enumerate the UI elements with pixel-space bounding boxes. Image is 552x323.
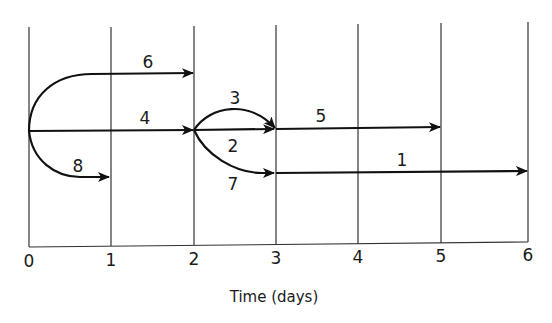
activity-4-arrow — [29, 130, 193, 131]
activity-3-label: 3 — [230, 88, 241, 108]
activity-1-label: 1 — [397, 150, 408, 170]
time-axis-baseline — [29, 242, 528, 247]
tick-label-4: 4 — [353, 247, 364, 267]
activity-2-label: 2 — [228, 136, 239, 156]
activity-7-label: 7 — [228, 174, 239, 194]
x-axis-ticks: 0 1 2 3 4 5 6 — [24, 245, 534, 271]
x-axis-title: Time (days) — [229, 288, 319, 306]
activity-2-arrow — [194, 129, 274, 130]
tick-label-5: 5 — [436, 246, 447, 266]
activity-timeline-diagram: 6 4 8 3 2 5 7 1 0 1 2 3 4 5 6 Time (days… — [0, 0, 552, 323]
tick-label-6: 6 — [523, 245, 534, 265]
tick-label-0: 0 — [24, 251, 35, 271]
activity-8-arrow — [29, 131, 109, 177]
tick-label-2: 2 — [189, 249, 200, 269]
activity-1-arrow — [276, 171, 527, 173]
activity-8-label: 8 — [73, 156, 84, 176]
activity-5-label: 5 — [316, 106, 327, 126]
day-gridlines — [29, 22, 528, 247]
activity-6-label: 6 — [143, 52, 154, 72]
tick-label-1: 1 — [106, 250, 117, 270]
activity-4-label: 4 — [140, 108, 151, 128]
tick-label-3: 3 — [271, 248, 282, 268]
activity-3-arrow — [194, 109, 275, 130]
activity-5-arrow — [276, 127, 440, 129]
